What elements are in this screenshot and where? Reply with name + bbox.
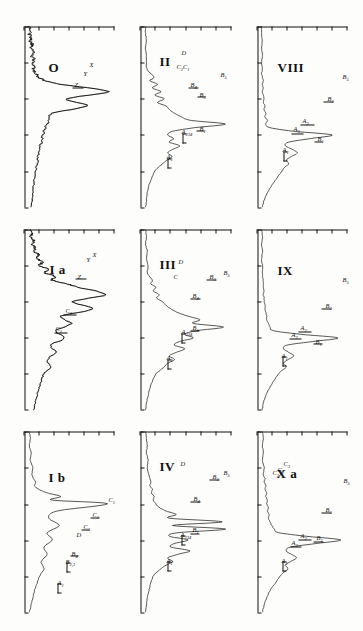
peak-leader-line [76,278,87,279]
panel-label: VIII [277,59,304,75]
peak-leader-line [72,87,83,88]
plot-area: VIIIB5B3B1A2A3A1 [257,26,347,207]
peak-label: D [181,48,186,55]
peak-label: A2 [300,323,306,332]
plot-area: X aB5B3B1A2A3A1C3C2C1 [257,431,347,612]
peak-label: B3 [199,90,205,99]
peak-leader-line [313,541,323,542]
peak-leader-line [323,101,333,102]
peak-bracket [282,356,286,366]
peak-label: Y [83,69,87,76]
peak-leader-line [321,308,331,309]
peak-leader-line [289,338,301,339]
peak-bracket [66,562,70,572]
panel-III: IIIDCB4B3B5B1A234A1 [124,219,236,414]
peak-leader-line [197,96,205,97]
spectrum-trace [140,229,230,410]
peak-bracket [181,333,185,343]
peak-label: B1 [315,337,321,346]
peak-leader-line [291,133,303,134]
panel-label: II [159,53,170,69]
peak-bracket [167,158,171,168]
plot-area: IIIDCB4B3B5B1A234A1 [140,229,230,410]
plot-area: IXB5B3B1A2A3A1 [257,229,347,410]
peak-label: C2C1 [176,62,189,71]
peak-label: C3 [283,459,290,468]
panel-II: IIDC2C1B4B3B5B1A234A1 [124,16,236,211]
peak-leader-line [81,529,89,530]
peak-leader-line [196,130,204,131]
peak-label: X [92,250,96,257]
peak-label: B5 [220,70,226,79]
peak-leader-line [290,546,301,547]
peak-label: C1 [272,468,279,477]
panel-label: III [159,256,176,272]
panel-Ia: I aXYZC2C1 [8,219,120,414]
plot-area: OXYZ [24,26,114,207]
panel-label: I b [48,469,65,485]
spectrum-trace [257,229,347,410]
peak-label: Y [86,255,90,262]
panel-label: I a [49,261,65,277]
peak-leader-line [209,479,219,480]
panel-O: OXYZ [8,16,120,211]
figure-sheet: VIIIB5B3B1A2A3A1IXB5B3B1A2A3A1X aB5B3B1A… [0,0,363,631]
peak-bracket [283,151,287,161]
peak-label: B5 [223,468,229,477]
peak-label: X [90,60,94,67]
peak-leader-line [188,87,198,88]
peak-leader-line [190,298,200,299]
peak-label: A3 [293,124,299,133]
spectrum-trace [24,26,114,207]
panel-IV: IVDB4B3B5B1A234A1 [124,421,236,616]
peak-leader-line [298,539,311,540]
peak-leader-line [63,314,76,315]
peak-label: Z [74,80,78,87]
peak-leader-line [300,124,314,125]
peak-label: C1 [108,495,115,504]
spectrum-trace [140,431,230,612]
peak-leader-line [54,332,67,333]
peak-label: B5 [343,476,349,485]
spectra-figure: VIIIB5B3B1A2A3A1IXB5B3B1A2A3A1X aB5B3B1A… [0,0,363,631]
peak-leader-line [321,512,331,513]
peak-leader-line [314,141,322,142]
panel-Xa: X aB5B3B1A2A3A1C3C2C1 [241,421,353,616]
peak-bracket [181,535,185,545]
peak-label: B5 [342,72,348,81]
peak-leader-line [90,517,99,518]
peak-leader-line [190,501,200,502]
panel-label: O [48,59,59,75]
peak-label: C [173,272,177,279]
panel-IX: IXB5B3B1A2A3A1 [241,219,353,414]
peak-bracket [167,561,171,571]
panel-label: IX [277,262,292,278]
peak-label: D [76,530,81,537]
peak-label: D [180,459,185,466]
plot-area: I aXYZC2C1 [24,229,114,410]
plot-area: I bC1C2C3DB4B2,3A1 [24,431,114,612]
peak-bracket [167,359,171,369]
peak-label: D [178,257,183,264]
plot-area: IVDB4B3B5B1A234A1 [140,431,230,612]
panel-VIII: VIIIB5B3B1A2A3A1 [241,16,353,211]
spectrum-trace [257,431,347,612]
peak-bracket [57,583,61,593]
peak-bracket [182,133,186,143]
panel-grid: VIIIB5B3B1A2A3A1IXB5B3B1A2A3A1X aB5B3B1A… [8,16,353,616]
peak-leader-line [298,331,311,332]
peak-label: B5 [223,268,229,277]
peak-leader-line [70,555,78,556]
plot-area: IIDC2C1B4B3B5B1A234A1 [140,26,230,207]
peak-leader-line [313,343,322,344]
spectrum-trace [24,431,114,612]
panel-label: IV [159,458,174,474]
peak-label: B5 [342,275,348,284]
peak-bracket [282,561,286,571]
peak-leader-line [206,279,216,280]
panel-Ib: I bC1C2C3DB4B2,3A1 [8,421,120,616]
spectrum-trace [24,229,114,410]
